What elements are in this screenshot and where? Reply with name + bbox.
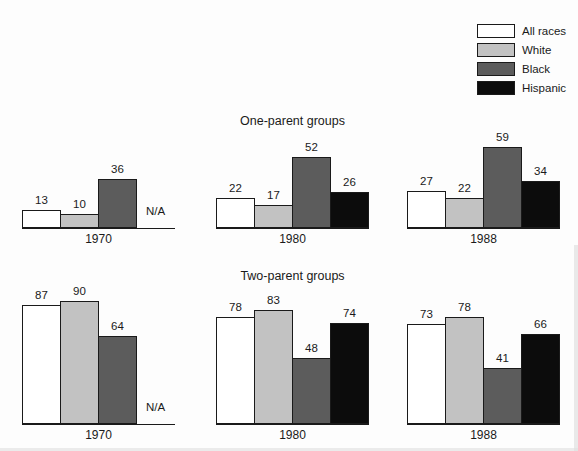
bar-white (445, 317, 484, 424)
bar-all-races (22, 210, 61, 228)
bar-value-label: 41 (479, 352, 526, 365)
chart-title-two-parent-groups: Two-parent groups (216, 269, 369, 283)
legend-label: White (522, 44, 551, 56)
legend-item-all-races: All races (477, 24, 566, 38)
legend-swatch (477, 62, 515, 76)
legend-swatch (477, 24, 515, 38)
bar-black (292, 358, 331, 424)
bar-black (98, 336, 137, 424)
x-axis-label-year: 1988 (407, 428, 560, 442)
x-axis-label-year: 1970 (22, 428, 175, 442)
bar-value-label: 64 (94, 320, 141, 333)
x-axis-label-year: 1988 (407, 232, 560, 246)
bar-all-races (22, 305, 61, 424)
bar-value-label: 83 (250, 294, 297, 307)
bar-hispanic (330, 323, 369, 424)
bar-value-label: 74 (326, 307, 373, 320)
bar-white (254, 205, 293, 228)
scan-artifact-right-edge (574, 245, 578, 451)
bar-black (98, 179, 137, 228)
x-axis-label-year: 1970 (22, 232, 175, 246)
bar-value-label: 26 (326, 176, 373, 189)
bar-hispanic (521, 334, 560, 424)
bar-value-label: 90 (56, 285, 103, 298)
x-axis (216, 424, 369, 425)
legend: All racesWhiteBlackHispanic (477, 24, 566, 95)
legend-item-hispanic: Hispanic (477, 81, 566, 95)
x-axis-label-year: 1980 (216, 428, 369, 442)
x-axis (22, 424, 175, 425)
bar-hispanic (521, 181, 560, 228)
x-axis (216, 228, 369, 229)
bar-black (483, 147, 522, 228)
legend-swatch (477, 43, 515, 57)
bar-value-label: 36 (94, 163, 141, 176)
bar-white (445, 198, 484, 228)
chart-title-one-parent-groups: One-parent groups (216, 114, 369, 128)
bar-white (60, 214, 99, 228)
x-axis (22, 228, 175, 229)
bar-white (254, 310, 293, 424)
bar-all-races (407, 324, 446, 424)
bar-value-label: 59 (479, 131, 526, 144)
legend-swatch (477, 81, 515, 95)
legend-item-white: White (477, 43, 566, 57)
x-axis (407, 424, 560, 425)
bar-all-races (216, 317, 255, 424)
legend-label: Black (522, 63, 550, 75)
bar-value-label: 66 (517, 318, 564, 331)
legend-label: Hispanic (522, 82, 566, 94)
x-axis (407, 228, 560, 229)
bar-value-label: 34 (517, 165, 564, 178)
figure-canvas: All racesWhiteBlackHispanic One-parent g… (0, 0, 578, 451)
bar-hispanic (330, 192, 369, 228)
na-label: N/A (136, 401, 175, 414)
bar-value-label: 48 (288, 342, 335, 355)
legend-label: All races (522, 25, 566, 37)
bar-value-label: 78 (441, 301, 488, 314)
bar-black (292, 157, 331, 228)
bar-all-races (216, 198, 255, 228)
na-label: N/A (136, 205, 175, 218)
bar-black (483, 368, 522, 424)
legend-item-black: Black (477, 62, 566, 76)
bar-value-label: 10 (56, 198, 103, 211)
x-axis-label-year: 1980 (216, 232, 369, 246)
bar-value-label: 17 (250, 189, 297, 202)
bar-value-label: 22 (441, 182, 488, 195)
bar-all-races (407, 191, 446, 228)
bar-value-label: 52 (288, 141, 335, 154)
